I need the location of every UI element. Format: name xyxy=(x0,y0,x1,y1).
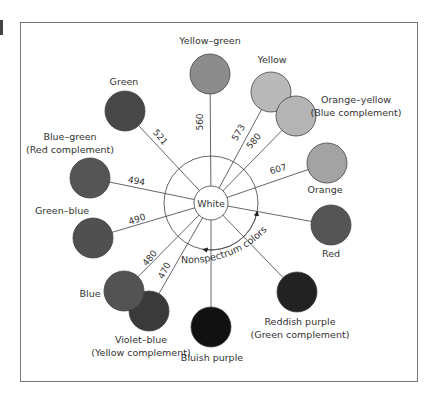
wavelength-580: 580 xyxy=(244,131,263,151)
label-reddish-purple: Reddish purple(Green complement) xyxy=(251,316,350,340)
white-label: White xyxy=(197,198,225,209)
label-blue-green: Blue–green(Red complement) xyxy=(26,131,114,155)
label-yellow-green: Yellow–green xyxy=(178,35,240,46)
wavelength-560: 560 xyxy=(195,113,205,130)
label-yellow: Yellow xyxy=(256,54,286,65)
color-node-green xyxy=(105,91,145,131)
wavelength-521: 521 xyxy=(151,127,170,147)
label-orange: Orange xyxy=(307,184,342,195)
label-orange-yellow: Orange–yellow(Blue complement) xyxy=(310,94,401,118)
label-green: Green xyxy=(110,76,139,87)
wavelength-573: 573 xyxy=(230,123,247,143)
label-blue: Blue xyxy=(79,288,100,299)
color-node-reddish-purple xyxy=(277,272,317,312)
wavelength-607: 607 xyxy=(269,162,288,176)
label-violet-blue: Violet–blue(Yellow complement) xyxy=(91,334,190,358)
color-node-bluish-purple xyxy=(191,307,231,347)
wavelength-470: 470 xyxy=(156,260,173,280)
color-node-blue-green xyxy=(70,158,110,198)
color-node-yellow-green xyxy=(190,54,230,94)
label-red: Red xyxy=(322,248,340,259)
color-circle-diagram: WhiteNonspectrum colors 5605735806075214… xyxy=(0,0,432,404)
wavelength-494: 494 xyxy=(127,175,146,188)
wavelength-490: 490 xyxy=(127,212,147,227)
color-node-orange xyxy=(307,143,347,183)
label-green-blue: Green–blue xyxy=(35,205,89,216)
color-node-blue xyxy=(104,271,144,311)
color-node-red xyxy=(311,205,351,245)
color-node-green-blue xyxy=(73,218,113,258)
nonspectrum-label: Nonspectrum colors xyxy=(181,224,269,265)
